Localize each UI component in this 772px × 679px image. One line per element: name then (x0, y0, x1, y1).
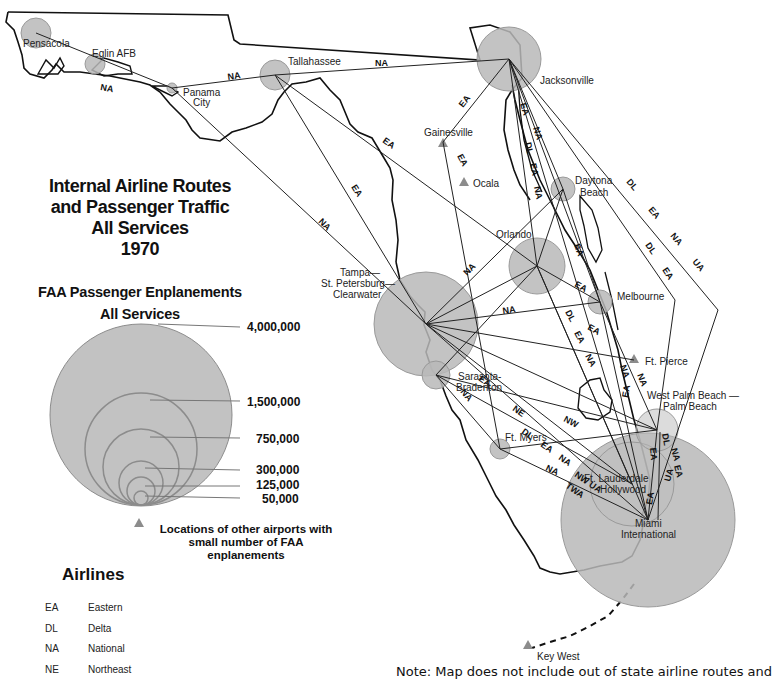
title-line-2: and Passenger Traffic (20, 197, 260, 218)
route-label: EA (586, 322, 602, 337)
title-line-3: All Services (20, 218, 260, 239)
route-label: NA (618, 364, 632, 380)
label-eglin: Eglin AFB (92, 48, 136, 59)
scale-label-300000: 300,000 (256, 463, 299, 477)
other-note-line-2: small number of FAA (146, 536, 346, 549)
airline-name: Northeast (88, 664, 131, 675)
label-ftl-2: Hollywood (600, 484, 646, 495)
triangle-ft-pierce (629, 354, 639, 363)
other-note-line-3: enplanements (146, 549, 346, 562)
route-label: DL (660, 433, 672, 447)
label-wpb-1: West Palm Beach — (647, 390, 739, 401)
scale-label-125000: 125,000 (256, 478, 299, 492)
enplanements-title-line-1: FAA Passenger Enplanements (20, 281, 260, 303)
airline-name: National (88, 643, 125, 654)
label-miami-2: International (621, 529, 676, 540)
airline-row-ne: NENortheast (45, 664, 131, 675)
label-miami-1: Miami (635, 518, 662, 529)
label-ocala: Ocala (473, 178, 500, 189)
label-daytona-1: Daytona (575, 175, 613, 186)
label-melbourne: Melbourne (617, 291, 665, 302)
airline-name: Eastern (88, 602, 122, 613)
legend-circle-4000000 (50, 324, 232, 506)
enplanements-legend-title: FAA Passenger Enplanements All Services (20, 281, 260, 325)
label-tampa-2: St. Petersburg— (321, 278, 395, 289)
airline-row-ea: EAEastern (45, 602, 122, 613)
enplanements-title-line-2: All Services (20, 303, 260, 325)
label-orlando: Orlando (496, 229, 532, 240)
state-boundary (8, 12, 530, 200)
label-wpb-2: Palm Beach (663, 401, 717, 412)
route-label: EA (381, 135, 397, 151)
label-panama-city-2: City (193, 97, 210, 108)
route-label: NA (583, 352, 598, 369)
route-label: EA (646, 205, 662, 221)
other-airports-note: Locations of other airports with small n… (146, 523, 346, 562)
title-line-4: 1970 (20, 239, 260, 260)
route-label: DL (523, 141, 535, 155)
legend-triangle-icon (134, 518, 144, 527)
triangle-ocala (459, 177, 469, 186)
triangle-key-west (523, 640, 533, 649)
label-daytona-2: Beach (580, 187, 608, 198)
route-label: DL (643, 241, 658, 257)
label-pensacola: Pensacola (23, 38, 70, 49)
label-tampa-3: Clearwater (333, 289, 382, 300)
route-label: NW (562, 414, 580, 430)
route-label: EA (349, 183, 364, 199)
route-label: NA (502, 304, 517, 316)
route-label: NE (511, 403, 527, 418)
label-ft-pierce: Ft. Pierce (645, 356, 688, 367)
route-label: NA (557, 452, 574, 468)
title-line-1: Internal Airline Routes (20, 176, 260, 197)
airline-row-na: NANational (45, 643, 125, 654)
route-label: NA (544, 463, 560, 478)
route-label: EA (573, 279, 589, 294)
route-label: EA (648, 447, 659, 461)
route-label: EA (572, 329, 587, 345)
route-label: DL (624, 177, 640, 193)
airline-code: EA (45, 602, 88, 613)
route-label: NA (668, 231, 684, 248)
label-jacksonville: Jacksonville (540, 75, 594, 86)
route-label: EA (455, 152, 470, 168)
route-label: EA (528, 162, 540, 177)
legend-circles (50, 324, 232, 506)
label-tallahassee: Tallahassee (288, 56, 341, 67)
route-label: EA (457, 93, 473, 109)
route-label: NA (317, 216, 334, 233)
route-label: EA (660, 266, 676, 282)
route-label: DL (563, 308, 578, 324)
route-label: NA (100, 82, 115, 94)
scale-label-750000: 750,000 (256, 432, 299, 446)
airline-row-dl: DLDelta (45, 623, 111, 634)
airline-code: DL (45, 623, 88, 634)
scale-label-50000: 50,000 (262, 492, 299, 506)
route-label: NA (375, 58, 388, 68)
airline-code: NE (45, 664, 88, 675)
route-label: NA (227, 70, 242, 82)
route-label: EA (620, 384, 632, 399)
airline-code: NA (45, 643, 88, 654)
airlines-legend-title: Airlines (62, 565, 124, 585)
airline-name: Delta (88, 623, 111, 634)
label-key-west: Key West (537, 651, 580, 662)
route-label: UA (690, 257, 706, 274)
route-label: EA (572, 242, 586, 258)
label-gainesville: Gainesville (424, 127, 473, 138)
map-title: Internal Airline Routes and Passenger Tr… (20, 176, 260, 260)
map-footnote: Note: Map does not include out of state … (396, 664, 772, 679)
other-note-line-1: Locations of other airports with (146, 523, 346, 536)
label-tampa-1: Tampa— (340, 267, 380, 278)
route-label: NA (532, 185, 545, 200)
scale-label-1500000: 1,500,000 (247, 395, 300, 409)
scale-label-4000000: 4,000,000 (247, 320, 300, 334)
